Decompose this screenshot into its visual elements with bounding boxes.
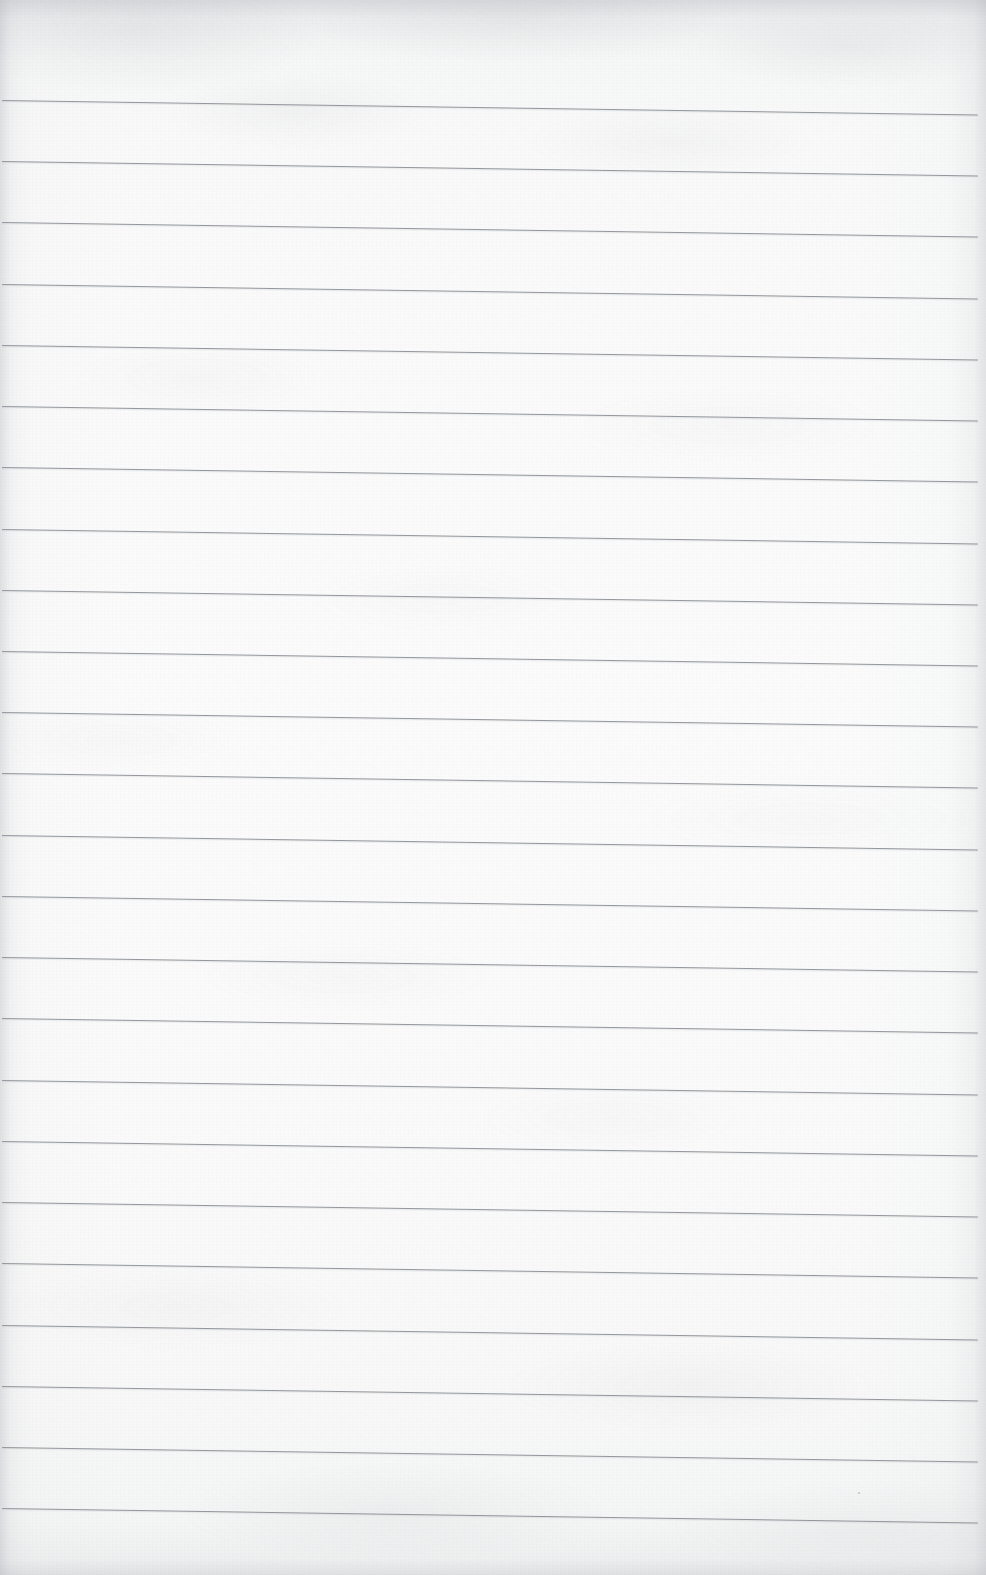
rule-line xyxy=(2,1263,978,1278)
scanned-page xyxy=(0,0,986,1575)
rule-line xyxy=(2,284,978,299)
rule-line xyxy=(2,1080,978,1095)
rule-line xyxy=(2,712,978,727)
rule-line xyxy=(2,1508,978,1523)
rule-line xyxy=(2,1141,978,1156)
rule-line xyxy=(2,651,978,666)
rule-line xyxy=(2,896,978,911)
rule-line xyxy=(2,161,978,176)
rule-line xyxy=(2,590,978,605)
rule-line xyxy=(2,773,978,788)
rule-line xyxy=(2,1018,978,1033)
rule-line xyxy=(2,406,978,421)
rule-line xyxy=(2,1447,978,1462)
rule-line xyxy=(2,1386,978,1401)
scan-speck xyxy=(742,1336,743,1337)
rule-line xyxy=(2,529,978,544)
rule-line xyxy=(2,957,978,972)
rule-line xyxy=(2,1202,978,1217)
rule-line xyxy=(2,467,978,482)
rule-line xyxy=(2,1325,978,1340)
rule-line xyxy=(2,222,978,237)
rule-line xyxy=(2,835,978,850)
rule-line xyxy=(2,345,978,360)
scan-speck xyxy=(858,1492,860,1494)
rule-line xyxy=(2,100,978,115)
ruled-lines-group xyxy=(0,0,986,1575)
